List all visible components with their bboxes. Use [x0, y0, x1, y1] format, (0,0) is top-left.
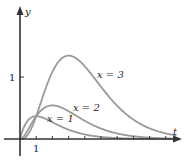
curve-label-x3: x = 3: [97, 69, 124, 80]
t-axis-label: t: [173, 126, 178, 137]
x-tick-label-1: 1: [33, 143, 39, 154]
curve-label-x2: x = 2: [73, 102, 100, 113]
chart: y t 1 1 x = 1 x = 2 x = 3: [0, 0, 186, 162]
curve-label-x1: x = 1: [47, 113, 74, 124]
y-tick-label-1: 1: [9, 72, 15, 83]
y-axis-label: y: [24, 6, 31, 17]
y-axis-arrow-icon: [17, 6, 24, 15]
